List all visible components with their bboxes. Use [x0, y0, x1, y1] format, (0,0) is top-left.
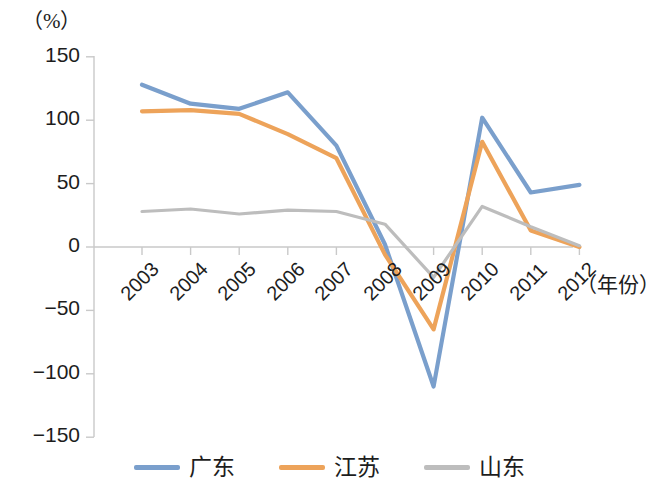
legend-item[interactable]: 江苏 [279, 456, 380, 479]
legend-swatch-icon [279, 465, 325, 470]
legend-label: 广东 [189, 456, 235, 479]
axis-lines [86, 56, 579, 437]
line-chart: （%） （年份） 150100500−50−100−150 2003200420… [0, 0, 659, 489]
y-axis-tick-label: −100 [8, 360, 80, 384]
legend-label: 山东 [479, 456, 525, 479]
series-line [142, 206, 579, 277]
series-lines [142, 85, 579, 387]
y-axis-tick-label: 100 [8, 106, 80, 130]
legend-swatch-icon [424, 465, 470, 470]
legend-label: 江苏 [334, 456, 380, 479]
y-axis-tick-label: 50 [8, 170, 80, 194]
legend-swatch-icon [134, 465, 180, 470]
series-line [142, 85, 579, 387]
y-axis-tick-label: 0 [8, 233, 80, 257]
chart-legend: 广东江苏山东 [0, 456, 659, 479]
legend-item[interactable]: 广东 [134, 456, 235, 479]
legend-item[interactable]: 山东 [424, 456, 525, 479]
y-axis-tick-label: −50 [8, 296, 80, 320]
plot-area [0, 0, 659, 489]
y-axis-tick-label: −150 [8, 423, 80, 447]
y-axis-unit-label: （%） [22, 4, 82, 34]
y-axis-tick-label: 150 [8, 43, 80, 67]
